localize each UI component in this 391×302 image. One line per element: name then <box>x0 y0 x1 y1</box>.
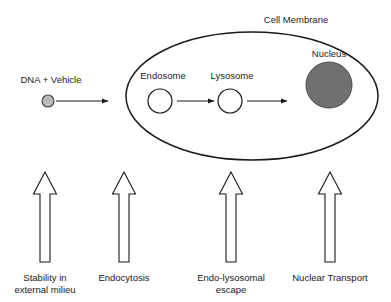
dna-vehicle-label: DNA + Vehicle <box>1 74 101 86</box>
nucleus-circle <box>306 62 352 108</box>
stage-arrow-endo-lysosomal-escape-label: Endo-lysosomalescape <box>179 272 283 295</box>
nucleus-label: Nucleus <box>289 48 369 60</box>
cell-membrane-label: Cell Membrane <box>236 14 356 26</box>
stage-arrow-stability <box>34 172 57 262</box>
diagram-canvas: Cell Membrane Nucleus Endosome Lysosome … <box>0 0 391 302</box>
stage-arrow-nuclear-transport-label: Nuclear Transport <box>278 272 382 284</box>
stage-arrow-endo-lysosomal-escape <box>220 172 243 262</box>
endosome-label: Endosome <box>123 70 203 82</box>
endosome-circle <box>148 89 172 113</box>
stage-arrow-nuclear-transport <box>319 172 342 262</box>
stage-arrow-endocytosis <box>113 172 136 262</box>
lysosome-circle <box>218 89 242 113</box>
dna-vehicle-particle <box>42 95 54 107</box>
cell-uptake-diagram <box>0 0 391 302</box>
lysosome-label: Lysosome <box>192 70 272 82</box>
stage-arrow-endocytosis-label: Endocytosis <box>72 272 176 284</box>
stage-arrow-group <box>34 172 342 262</box>
